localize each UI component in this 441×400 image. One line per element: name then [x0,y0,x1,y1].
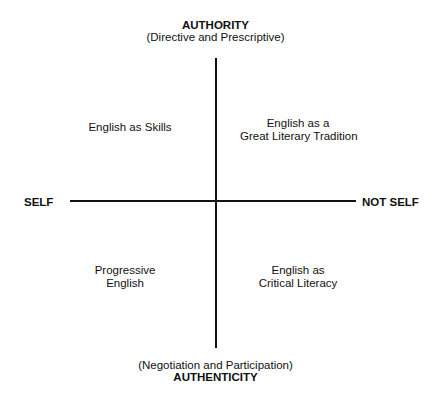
top-axis-subtitle: (Directive and Prescriptive) [0,31,431,44]
right-axis-title: NOT SELF [362,196,419,209]
quadrant-label-line: English as Skills [60,121,200,134]
quadrant-label-line: Progressive [70,264,180,277]
vertical-axis-line [215,58,217,348]
quadrant-top-left-label: English as Skills [60,121,200,134]
horizontal-axis-line [70,200,356,202]
quadrant-label-line: Critical Literacy [240,277,356,290]
quadrant-label-line: English as a [240,117,356,130]
quadrant-bottom-left-label: Progressive English [70,264,180,290]
quadrant-bottom-right-label: English as Critical Literacy [240,264,356,290]
bottom-axis-title: AUTHENTICITY [0,371,431,384]
left-axis-title: SELF [24,196,53,209]
quadrant-label-line: Great Literary Tradition [240,130,356,143]
quadrant-top-right-label: English as a Great Literary Tradition [240,117,356,143]
quadrant-label-line: English as [240,264,356,277]
quadrant-label-line: English [70,277,180,290]
